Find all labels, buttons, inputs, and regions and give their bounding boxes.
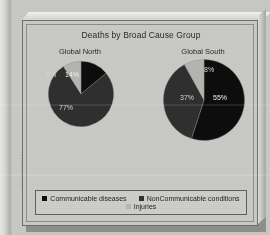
legend-row-secondary: Injuries — [40, 203, 242, 210]
page-left-edge — [0, 0, 9, 235]
legend-label-noncommunicable: NonCommunicable conditions — [147, 195, 240, 202]
legend-label-injuries: Injuries — [134, 203, 157, 210]
value-north-noncommunicable: 77% — [59, 104, 73, 111]
pie-north-svg — [48, 61, 114, 127]
legend-item-injuries: Injuries — [126, 203, 157, 210]
chart-title: Deaths by Broad Cause Group — [23, 30, 259, 40]
legend-row-primary: Communicable diseases NonCommunicable co… — [40, 195, 242, 202]
value-south-communicable: 55% — [213, 94, 227, 101]
pie-label-global-north: Global North — [45, 47, 115, 56]
legend-label-communicable: Communicable diseases — [50, 195, 126, 202]
legend-swatch-noncommunicable-icon — [139, 196, 144, 201]
chart-legend: Communicable diseases NonCommunicable co… — [35, 190, 247, 215]
value-south-injuries: 8% — [204, 66, 214, 73]
frame-bevel-right — [258, 9, 266, 224]
pie-chart-global-north — [48, 61, 114, 127]
scanned-page: 5741 0990 0004 Deaths by Broad Cause Gro… — [0, 0, 270, 235]
value-north-communicable: 14% — [65, 71, 79, 78]
legend-swatch-communicable-icon — [42, 196, 47, 201]
page-edge-shadow — [9, 0, 12, 235]
value-south-noncommunicable: 37% — [180, 94, 194, 101]
frame-bevel-top — [22, 12, 270, 20]
chart-panel: Deaths by Broad Cause Group Global North… — [22, 20, 258, 226]
legend-item-communicable: Communicable diseases — [42, 195, 126, 202]
value-north-injuries: 9% — [46, 71, 56, 78]
pie-label-global-south: Global South — [168, 47, 238, 56]
legend-swatch-injuries-icon — [126, 204, 131, 209]
legend-item-noncommunicable: NonCommunicable conditions — [139, 195, 240, 202]
